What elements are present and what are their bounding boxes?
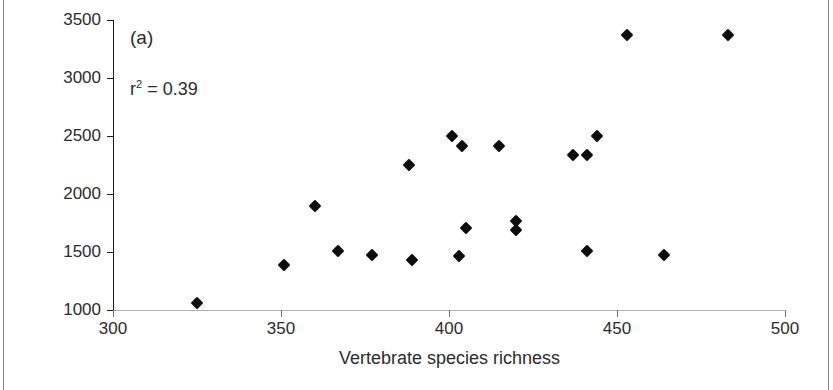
data-point	[456, 140, 469, 153]
data-point	[510, 224, 523, 237]
data-point	[590, 130, 603, 143]
y-tick-label-2000: 2000	[63, 185, 101, 202]
r-squared-annotation: r2 = 0.39	[130, 78, 198, 100]
panel-label: (a)	[130, 27, 153, 49]
figure-panel-a: 100015002000250030003500 300350400450500…	[0, 0, 833, 390]
y-tick-label-1000: 1000	[63, 301, 101, 318]
x-tick-400	[449, 310, 450, 317]
data-point	[493, 140, 506, 153]
data-point	[567, 148, 580, 161]
data-point	[722, 29, 735, 42]
data-point	[658, 249, 671, 262]
r-squared-value: = 0.39	[142, 79, 198, 99]
x-tick-500	[785, 310, 786, 317]
x-axis-title: Vertebrate species richness	[113, 348, 786, 369]
data-point	[365, 249, 378, 262]
y-tick-label-1500: 1500	[63, 243, 101, 260]
data-point	[191, 297, 204, 310]
y-tick-label-2500: 2500	[63, 127, 101, 144]
x-tick-450	[617, 310, 618, 317]
x-tick-300	[113, 310, 114, 317]
data-point	[580, 149, 593, 162]
data-point	[446, 130, 459, 143]
data-point	[453, 250, 466, 263]
data-point	[459, 221, 472, 234]
x-tick-350	[281, 310, 282, 317]
x-tick-label-300: 300	[73, 320, 153, 337]
data-point	[621, 28, 634, 41]
y-tick-label-3500: 3500	[63, 11, 101, 28]
data-point	[406, 254, 419, 267]
page-border-left	[3, 0, 4, 390]
data-point	[580, 244, 593, 257]
x-tick-label-500: 500	[745, 320, 825, 337]
x-tick-label-400: 400	[409, 320, 489, 337]
data-point	[308, 199, 321, 212]
data-point	[402, 159, 415, 172]
plot-area	[113, 20, 785, 310]
y-tick-label-3000: 3000	[63, 69, 101, 86]
x-tick-label-350: 350	[241, 320, 321, 337]
data-point	[332, 244, 345, 257]
page-border-right	[828, 0, 829, 390]
data-point	[278, 258, 291, 271]
x-tick-label-450: 450	[577, 320, 657, 337]
